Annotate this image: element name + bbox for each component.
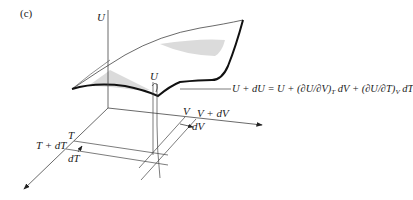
dt-label: dT (68, 153, 80, 164)
dv-label: dV (192, 121, 204, 132)
t-plus-dt-label: T + dT (36, 140, 66, 151)
v-plus-dv-line (141, 119, 196, 180)
formula-term1: (∂U/∂V) (297, 83, 331, 94)
formula-term2: (∂U/∂T) (362, 83, 396, 94)
v-plus-dv-label: V + dV (197, 108, 229, 119)
panel-label: (c) (20, 8, 32, 19)
t-label: T (68, 130, 74, 141)
v-line (139, 117, 185, 168)
formula-lhs: U + dU = U + (232, 83, 297, 94)
u-axis-label: U (97, 12, 105, 23)
formula-term1-tail: dV + (335, 83, 361, 94)
t-line (74, 141, 168, 155)
formula-term2-tail: dT (400, 83, 413, 94)
v-label: V (183, 106, 190, 117)
surface-point-label: U (150, 71, 158, 82)
formula: U + dU = U + (∂U/∂V)T dV + (∂U/∂T)V dT (232, 84, 413, 96)
